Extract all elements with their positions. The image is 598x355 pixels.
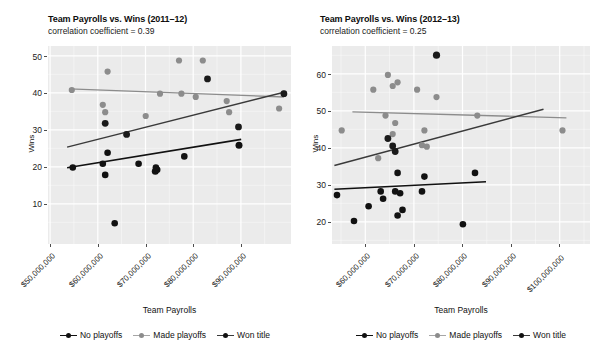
y-tick-label-40: 40 — [304, 143, 326, 153]
minor-gridlines — [332, 46, 590, 244]
data-points-no-playoffs — [334, 170, 479, 228]
y-tick-label-30: 30 — [20, 125, 42, 135]
x-tick-label: $50,000,000 — [8, 251, 57, 300]
chart-title-block-left: Team Payrolls vs. Wins (2011–12) correla… — [48, 14, 187, 37]
legend-right: No playoffs Made playoffs Won title — [332, 328, 590, 342]
facet-2012-13: Team Payrolls vs. Wins (2012–13) correla… — [299, 0, 598, 355]
facet-2011-12: Team Payrolls vs. Wins (2011–12) correla… — [0, 0, 299, 355]
plot-panel-left — [48, 46, 291, 244]
chart-subtitle-correlation: correlation coefficient = 0.39 — [48, 26, 187, 37]
legend-key-made-playoffs-icon — [133, 330, 150, 340]
y-tick-mark — [328, 222, 331, 223]
x-tick-mark — [414, 244, 415, 247]
x-tick-mark — [511, 244, 512, 247]
data-points-made-playoffs — [69, 57, 287, 119]
data-points-won-title — [102, 76, 287, 138]
legend-key-won-title-icon — [513, 330, 530, 340]
x-tick-mark — [241, 244, 242, 247]
x-tick-label: $60,000,000 — [56, 251, 105, 300]
y-tick-mark — [44, 204, 47, 205]
legend-item-made-playoffs[interactable]: Made playoffs — [133, 330, 206, 340]
y-tick-label-60: 60 — [304, 70, 326, 80]
y-tick-label-50: 50 — [20, 52, 42, 62]
major-gridlines — [332, 46, 590, 244]
x-tick-mark — [146, 244, 147, 247]
chart-title: Team Payrolls vs. Wins (2011–12) — [48, 14, 187, 25]
x-tick-label: $90,000,000 — [469, 251, 518, 300]
y-tick-mark — [328, 185, 331, 186]
y-tick-label-20: 20 — [304, 217, 326, 227]
legend-label: Made playoffs — [153, 330, 206, 340]
legend-label: Won title — [237, 330, 270, 340]
x-tick-mark — [98, 244, 99, 247]
legend-item-made-playoffs[interactable]: Made playoffs — [429, 330, 502, 340]
chart-subtitle-correlation: correlation coefficient = 0.25 — [320, 26, 460, 37]
chart-title: Team Payrolls vs. Wins (2012–13) — [320, 14, 460, 25]
legend-key-no-playoffs-icon — [60, 330, 77, 340]
y-tick-mark — [44, 56, 47, 57]
y-tick-mark — [44, 93, 47, 94]
x-tick-mark — [365, 244, 366, 247]
legend-item-won-title[interactable]: Won title — [217, 330, 270, 340]
x-tick-label: $60,000,000 — [323, 251, 372, 300]
plot-panel-right — [332, 46, 590, 244]
x-tick-label: $100,000,000 — [512, 253, 566, 307]
legend-item-no-playoffs[interactable]: No playoffs — [356, 330, 418, 340]
legend-left: No playoffs Made playoffs Won title — [40, 328, 290, 342]
x-tick-mark — [462, 244, 463, 247]
y-tick-mark — [328, 148, 331, 149]
y-tick-label-40: 40 — [20, 88, 42, 98]
plot-canvas-left — [48, 46, 291, 244]
x-tick-mark — [50, 244, 51, 247]
trend-line-no-playoffs — [334, 182, 486, 189]
legend-key-won-title-icon — [217, 330, 234, 340]
y-tick-label-50: 50 — [304, 106, 326, 116]
x-tick-label: $70,000,000 — [104, 251, 153, 300]
legend-item-won-title[interactable]: Won title — [513, 330, 566, 340]
legend-key-made-playoffs-icon — [429, 330, 446, 340]
legend-label: No playoffs — [80, 330, 122, 340]
y-tick-mark — [44, 167, 47, 168]
x-axis-label: Team Payrolls — [48, 305, 291, 315]
x-tick-label: $80,000,000 — [151, 251, 200, 300]
legend-key-no-playoffs-icon — [356, 330, 373, 340]
legend-item-no-playoffs[interactable]: No playoffs — [60, 330, 122, 340]
y-tick-mark — [44, 130, 47, 131]
trend-line-won-title — [67, 92, 284, 147]
x-tick-label: $70,000,000 — [372, 251, 421, 300]
legend-label: No playoffs — [376, 330, 418, 340]
legend-label: Made playoffs — [449, 330, 502, 340]
x-tick-mark — [193, 244, 194, 247]
x-tick-label: $80,000,000 — [420, 251, 469, 300]
y-tick-mark — [328, 74, 331, 75]
y-tick-label-10: 10 — [20, 199, 42, 209]
legend-label: Won title — [533, 330, 566, 340]
trend-line-no-playoffs — [67, 139, 241, 167]
x-tick-mark — [559, 244, 560, 247]
data-points-no-playoffs — [70, 142, 243, 227]
y-tick-mark — [328, 111, 331, 112]
chart-title-block-right: Team Payrolls vs. Wins (2012–13) correla… — [320, 14, 460, 37]
x-tick-label: $90,000,000 — [199, 251, 248, 300]
y-tick-label-30: 30 — [304, 180, 326, 190]
x-axis-label: Team Payrolls — [332, 305, 590, 315]
scatter-plot-figure: Team Payrolls vs. Wins (2011–12) correla… — [0, 0, 598, 355]
minor-gridlines — [48, 46, 291, 244]
plot-canvas-right — [332, 46, 590, 244]
y-tick-label-20: 20 — [20, 162, 42, 172]
